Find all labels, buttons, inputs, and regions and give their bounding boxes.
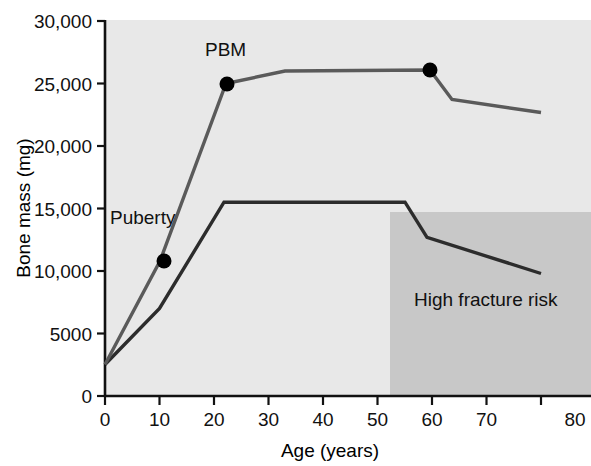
chart-svg: 30,000 25,000 20,000 15,000 10,000 5000 …	[0, 0, 591, 466]
y-tick-label-0: 0	[81, 386, 92, 407]
x-tick-label-50: 50	[367, 409, 388, 430]
x-tick-label-0: 0	[100, 409, 111, 430]
x-tick-label-10: 10	[149, 409, 170, 430]
high-fracture-risk-label: High fracture risk	[414, 289, 558, 310]
y-tick-label-10000: 10,000	[34, 261, 92, 282]
y-tick-label-15000: 15,000	[34, 199, 92, 220]
x-tick-label-20: 20	[203, 409, 224, 430]
x-tick-label-30: 30	[258, 409, 279, 430]
x-axis-ticks	[105, 396, 541, 405]
x-tick-label-80: 80	[564, 409, 585, 430]
y-axis-title: Bone mass (mg)	[13, 138, 34, 277]
marker-puberty-point	[157, 254, 172, 269]
y-tick-label-30000: 30,000	[34, 11, 92, 32]
bone-mass-chart: 30,000 25,000 20,000 15,000 10,000 5000 …	[0, 0, 591, 466]
x-tick-label-70: 70	[476, 409, 497, 430]
x-axis-title: Age (years)	[281, 440, 379, 461]
x-tick-label-40: 40	[312, 409, 333, 430]
x-tick-label-60: 60	[421, 409, 442, 430]
y-tick-label-5000: 5000	[50, 324, 92, 345]
marker-pbm-point	[220, 77, 235, 92]
pbm-label: PBM	[205, 39, 246, 60]
y-tick-label-20000: 20,000	[34, 136, 92, 157]
marker-decline-onset-point	[423, 63, 438, 78]
y-tick-label-25000: 25,000	[34, 74, 92, 95]
puberty-label: Puberty	[110, 207, 176, 228]
